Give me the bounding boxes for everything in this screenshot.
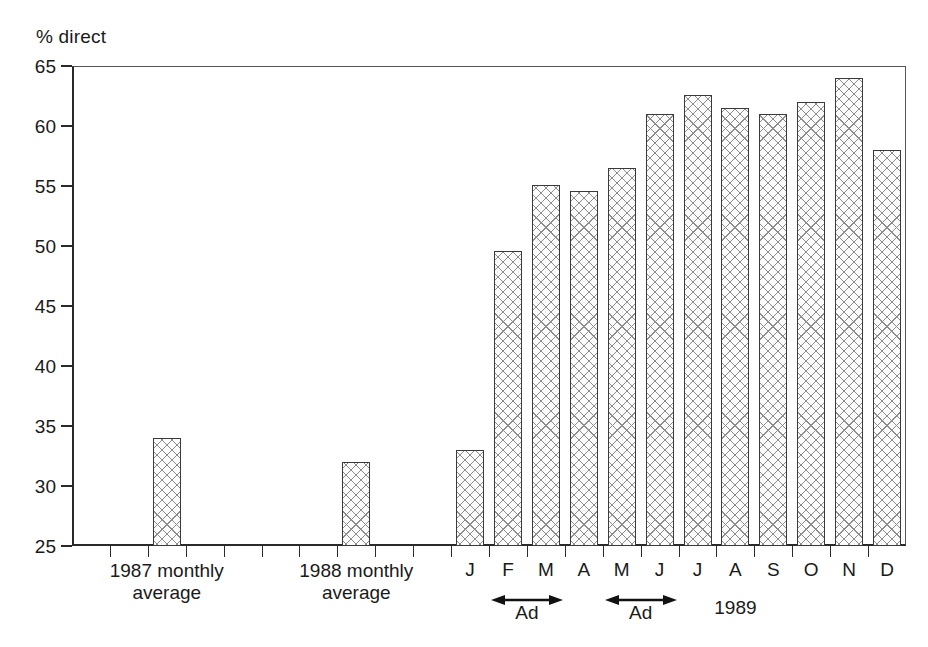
x-axis-month-label: J (679, 560, 717, 579)
cat-1987-line1: 1987 monthly (67, 560, 267, 582)
cat-1988-line2: average (256, 582, 456, 604)
bar (342, 462, 370, 546)
y-axis-tick (61, 545, 72, 547)
x-axis-month-label: N (830, 560, 868, 579)
y-axis-tick-label: 40 (0, 357, 56, 376)
y-axis-tick-label: 65 (0, 57, 56, 76)
x-axis-tick (565, 546, 566, 557)
x-axis-tick (489, 546, 490, 557)
x-axis-tick (299, 546, 300, 557)
y-axis-tick-label: 45 (0, 297, 56, 316)
x-axis-tick (754, 546, 755, 557)
y-axis-tick-label: 25 (0, 537, 56, 556)
x-axis-month-label: S (754, 560, 792, 579)
bar (759, 114, 787, 546)
ad-label-2: Ad (605, 603, 677, 622)
x-axis-month-label: J (641, 560, 679, 579)
bar (532, 185, 560, 546)
ad-span-annotation-2: Ad (605, 594, 677, 626)
cat-1988-line1: 1988 monthly (256, 560, 456, 582)
x-axis-tick (527, 546, 528, 557)
y-axis-tick-label: 30 (0, 477, 56, 496)
bar (646, 114, 674, 546)
y-axis-title: % direct (36, 26, 106, 48)
x-axis-month-label: M (603, 560, 641, 579)
bar (721, 108, 749, 546)
x-axis-tick (868, 546, 869, 557)
y-axis-tick-label: 50 (0, 237, 56, 256)
x-axis-tick (110, 546, 111, 557)
x-axis-tick (262, 546, 263, 557)
x-axis-month-label: J (451, 560, 489, 579)
x-axis-tick (148, 546, 149, 557)
y-axis-tick (61, 365, 72, 367)
y-axis-tick-label: 35 (0, 417, 56, 436)
bar (835, 78, 863, 546)
ad-span-annotation-1: Ad (491, 594, 563, 626)
y-axis-tick (61, 485, 72, 487)
x-axis-tick (716, 546, 717, 557)
y-axis-tick (61, 425, 72, 427)
x-axis-tick (337, 546, 338, 557)
bar-chart: % direct 656055504540353025 1987 monthly… (0, 0, 928, 647)
y-axis-tick-label: 60 (0, 117, 56, 136)
x-axis-tick (792, 546, 793, 557)
x-axis-month-label: A (565, 560, 603, 579)
x-axis-tick (641, 546, 642, 557)
y-axis-tick (61, 125, 72, 127)
bar (797, 102, 825, 546)
y-axis-tick (61, 65, 72, 67)
bar (608, 168, 636, 546)
x-axis-year-label: 1989 (705, 598, 765, 617)
x-axis-month-label: F (489, 560, 527, 579)
x-axis-tick (603, 546, 604, 557)
bar (684, 95, 712, 546)
bar (570, 191, 598, 546)
y-axis-tick (61, 305, 72, 307)
bar (153, 438, 181, 546)
y-axis-tick-label: 55 (0, 177, 56, 196)
x-axis-month-label: A (716, 560, 754, 579)
x-axis-group-label-1988: 1988 monthlyaverage (256, 560, 456, 604)
x-axis-month-label: O (792, 560, 830, 579)
x-axis-tick (679, 546, 680, 557)
bar (494, 251, 522, 546)
x-axis-month-label: M (527, 560, 565, 579)
x-axis-tick (413, 546, 414, 557)
x-axis-group-label-1987: 1987 monthlyaverage (67, 560, 267, 604)
x-axis-tick (224, 546, 225, 557)
x-axis-tick (451, 546, 452, 557)
x-axis-tick (830, 546, 831, 557)
y-axis-tick (61, 245, 72, 247)
x-axis-tick (186, 546, 187, 557)
bar (456, 450, 484, 546)
cat-1987-line2: average (67, 582, 267, 604)
x-axis-month-label: D (868, 560, 906, 579)
y-axis-tick (61, 185, 72, 187)
x-axis-tick (375, 546, 376, 557)
bar (873, 150, 901, 546)
ad-label-1: Ad (491, 603, 563, 622)
